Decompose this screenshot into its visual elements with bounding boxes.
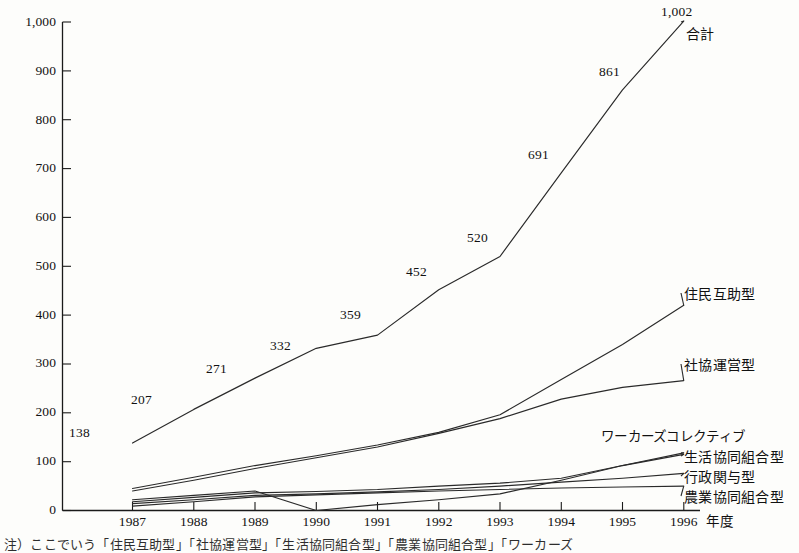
point-label-1987: 138 <box>69 426 90 440</box>
y-tick-label: 800 <box>0 113 56 127</box>
x-tick-label-1990: 1990 <box>286 515 346 529</box>
x-tick-label-1996: 1996 <box>654 515 714 529</box>
y-tick-label: 1,000 <box>0 15 56 29</box>
point-label-1992: 452 <box>406 265 427 279</box>
point-label-1993: 520 <box>467 231 488 245</box>
x-tick-label-1992: 1992 <box>409 515 469 529</box>
point-label-1994: 691 <box>528 148 549 162</box>
series-path-6 <box>133 453 684 511</box>
series-label-shakyo-unei: 社協運営型 <box>684 358 756 372</box>
x-tick-label-1988: 1988 <box>164 515 224 529</box>
y-tick-label: 500 <box>0 259 56 273</box>
series-label-seikatsu-kyodo: 生活協同組合型 <box>684 450 784 464</box>
x-tick-label-1994: 1994 <box>531 515 591 529</box>
y-tick-label: 400 <box>0 308 56 322</box>
series-label-nogyo-kyodo: 農業協同組合型 <box>684 490 784 504</box>
series-label-workers-collective: ワーカーズコレクティブ <box>601 430 745 444</box>
x-tick-label-1993: 1993 <box>470 515 530 529</box>
point-label-1996: 1,002 <box>661 5 692 19</box>
y-tick-label: 0 <box>0 503 56 517</box>
series-label-total: 合計 <box>686 27 715 41</box>
y-tick-label: 200 <box>0 405 56 419</box>
y-tick-label: 100 <box>0 454 56 468</box>
series-path-4 <box>133 473 684 503</box>
x-tick-label-1987: 1987 <box>103 515 163 529</box>
series-label-gyosei-kanyo: 行政関与型 <box>684 470 756 484</box>
y-tick-label: 600 <box>0 210 56 224</box>
figure-caption: 注）ここでいう「住民互助型」「社協運営型」「生活協同組合型」「農業協同組合型」「… <box>4 534 573 553</box>
series-path-1 <box>133 305 684 488</box>
series-path-0 <box>133 21 684 443</box>
x-tick-label-1991: 1991 <box>348 515 408 529</box>
point-label-1990: 332 <box>270 339 291 353</box>
series-path-3 <box>133 454 684 501</box>
series-label-jumin-gojo: 住民互助型 <box>684 287 756 301</box>
point-label-1988: 207 <box>131 393 152 407</box>
series-leader-lines <box>681 21 684 496</box>
point-label-1995: 861 <box>599 65 620 79</box>
y-tick-label: 900 <box>0 64 56 78</box>
y-tick-label: 300 <box>0 356 56 370</box>
x-tick-label-1989: 1989 <box>225 515 285 529</box>
point-label-1991: 359 <box>340 308 361 322</box>
y-tick-label: 700 <box>0 161 56 175</box>
x-tick-label-1995: 1995 <box>593 515 653 529</box>
x-axis-unit-label: 年度 <box>706 515 733 529</box>
point-label-1989: 271 <box>206 362 227 376</box>
x-axis-ticks <box>133 502 684 511</box>
